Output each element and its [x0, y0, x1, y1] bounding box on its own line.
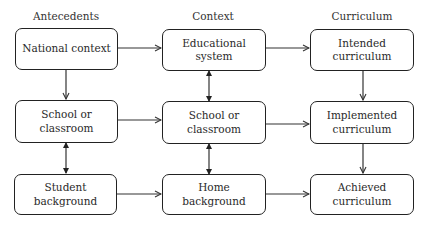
node-intended-curriculum: Intended curriculum — [310, 29, 414, 71]
node-national-context: National context — [15, 28, 118, 70]
node-label: Student background — [19, 181, 112, 207]
node-label: Achieved curriculum — [315, 181, 409, 207]
node-label: Intended curriculum — [327, 37, 397, 63]
node-label: School or classroom — [20, 108, 113, 134]
node-label: Educational system — [167, 37, 261, 63]
node-student-background: Student background — [14, 174, 117, 215]
node-implemented-curriculum: Implemented curriculum — [310, 101, 414, 144]
node-home-background: Home background — [162, 174, 266, 215]
node-school-classroom-antecedent: School or classroom — [15, 100, 118, 143]
node-educational-system: Educational system — [162, 29, 266, 71]
node-achieved-curriculum: Achieved curriculum — [310, 174, 414, 215]
node-label: Home background — [167, 181, 261, 207]
node-label: Implemented curriculum — [322, 109, 402, 135]
node-label: National context — [22, 42, 111, 55]
node-school-classroom-context: School or classroom — [162, 101, 266, 144]
node-label: School or classroom — [167, 109, 261, 135]
